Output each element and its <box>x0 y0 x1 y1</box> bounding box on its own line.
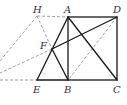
segment-FB <box>52 49 68 80</box>
segment-FD <box>52 17 117 49</box>
label-C: C <box>113 84 121 95</box>
label-F: F <box>39 40 48 51</box>
label-H: H <box>32 4 42 15</box>
label-E: E <box>32 84 41 95</box>
geometry-diagram: A D H F E B C <box>0 0 127 105</box>
segment-H-left <box>0 16 37 61</box>
label-B: B <box>63 84 71 95</box>
segment-F-left <box>0 49 52 73</box>
label-A: A <box>63 4 71 15</box>
label-D: D <box>112 4 121 15</box>
segment-HA <box>37 16 68 17</box>
